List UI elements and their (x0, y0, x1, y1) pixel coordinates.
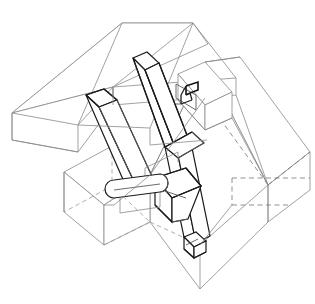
isometric-assembly-drawing (0, 0, 315, 304)
drawing-canvas (0, 0, 315, 304)
